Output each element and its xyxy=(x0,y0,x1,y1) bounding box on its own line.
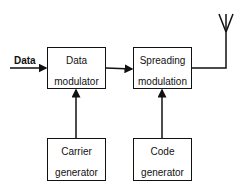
block-label-line2: modulator xyxy=(48,76,105,87)
antenna-icon xyxy=(219,14,233,32)
carrier-generator-block: Carrier generator xyxy=(47,138,106,181)
input-data-label: Data xyxy=(14,55,36,66)
block-label-line2: generator xyxy=(134,167,191,178)
code-generator-block: Code generator xyxy=(133,138,192,181)
connection-lines xyxy=(0,0,243,192)
block-label-line2: modulation xyxy=(134,76,191,87)
modulator-to-spreading-arrow xyxy=(106,68,132,69)
block-label-line1: Spreading xyxy=(134,55,191,66)
block-label-line2: generator xyxy=(48,167,105,178)
block-label-line1: Data xyxy=(48,55,105,66)
data-modulator-block: Data modulator xyxy=(47,47,106,89)
block-label-line1: Carrier xyxy=(48,146,105,157)
spreading-modulation-block: Spreading modulation xyxy=(133,47,192,89)
spreading-to-antenna-line xyxy=(191,30,226,68)
block-label-line1: Code xyxy=(134,146,191,157)
